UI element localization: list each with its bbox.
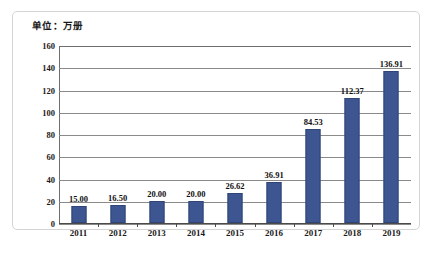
y-axis-tick-label: 40	[47, 175, 56, 185]
bar-value-label: 112.37	[341, 86, 364, 96]
bar-value-label: 36.91	[265, 170, 284, 180]
bar-slot: 20.00	[137, 46, 176, 224]
bar-value-label: 84.53	[304, 117, 323, 127]
y-axis-tick-label: 120	[42, 86, 55, 96]
bar[interactable]	[306, 129, 321, 223]
x-axis-tick	[333, 224, 334, 227]
y-axis-tick-label: 140	[42, 63, 55, 73]
bar-value-label: 20.00	[186, 189, 205, 199]
x-axis-tick	[176, 224, 177, 227]
x-axis-tick-label: 2016	[265, 228, 283, 238]
bar-slot: 112.37	[333, 46, 372, 224]
x-axis-tick-label: 2018	[343, 228, 361, 238]
x-axis-tick-label: 2017	[304, 228, 322, 238]
bar[interactable]	[110, 205, 125, 223]
x-axis-tick-label: 2019	[382, 228, 400, 238]
x-axis-tick	[372, 224, 373, 227]
y-axis-tick-label: 160	[42, 41, 55, 51]
x-axis-tick	[137, 224, 138, 227]
bar-slot: 26.62	[215, 46, 254, 224]
bar-value-label: 16.50	[108, 193, 127, 203]
bar-value-label: 26.62	[225, 181, 244, 191]
bar-value-label: 15.00	[69, 194, 88, 204]
figure-caption	[0, 243, 438, 257]
plot-area: 15.0016.5020.0020.0026.6236.9184.53112.3…	[59, 46, 411, 224]
bar-slot: 20.00	[176, 46, 215, 224]
y-axis-tick-label: 80	[47, 130, 56, 140]
x-axis-tick-label: 2013	[148, 228, 166, 238]
y-axis-tick-label: 100	[42, 108, 55, 118]
bar-slot: 136.91	[372, 46, 411, 224]
x-axis-tick-label: 2014	[187, 228, 205, 238]
bar-slot: 36.91	[255, 46, 294, 224]
bar-value-label: 136.91	[380, 59, 403, 69]
bar[interactable]	[149, 201, 164, 223]
bar-slot: 15.00	[59, 46, 98, 224]
bar[interactable]	[267, 182, 282, 223]
bar-slot: 16.50	[98, 46, 137, 224]
x-axis-tick-label: 2015	[226, 228, 244, 238]
x-axis-tick	[98, 224, 99, 227]
x-axis-tick-label: 2011	[70, 228, 88, 238]
bar[interactable]	[227, 193, 242, 223]
bar[interactable]	[188, 201, 203, 223]
bar[interactable]	[384, 71, 399, 223]
x-axis-tick-label: 2012	[109, 228, 127, 238]
x-axis-tick	[255, 224, 256, 227]
y-axis-tick-label: 0	[51, 219, 55, 229]
x-axis-tick	[294, 224, 295, 227]
bar[interactable]	[345, 98, 360, 223]
y-axis-tick-label: 20	[47, 197, 56, 207]
y-axis: 020406080100120140160	[31, 46, 55, 224]
x-axis-tick	[215, 224, 216, 227]
unit-axis-label: 单位：万册	[32, 18, 84, 32]
chart-frame: 单位：万册 020406080100120140160 15.0016.5020…	[12, 11, 420, 230]
x-axis-line	[59, 223, 411, 224]
bar-slot: 84.53	[294, 46, 333, 224]
bar[interactable]	[71, 206, 86, 223]
y-axis-tick-label: 60	[47, 152, 56, 162]
bar-value-label: 20.00	[147, 189, 166, 199]
gridline	[59, 224, 411, 225]
